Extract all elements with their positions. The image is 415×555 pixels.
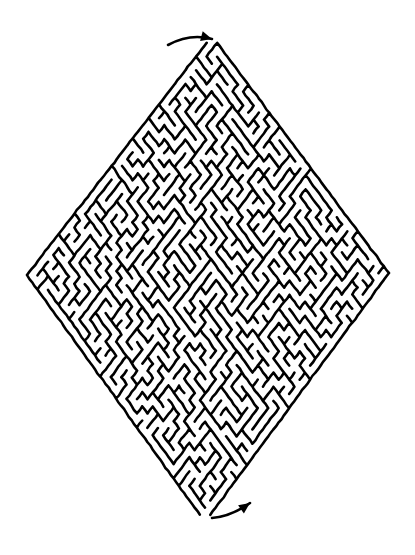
maze-board bbox=[0, 0, 415, 555]
